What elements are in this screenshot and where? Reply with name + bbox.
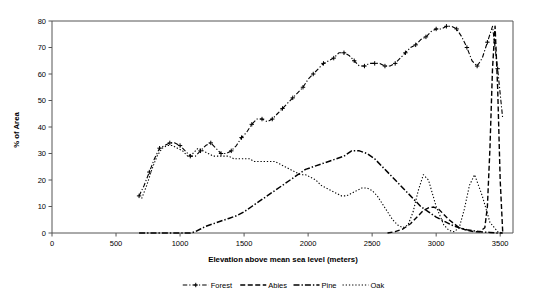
- data-series-group: [137, 24, 503, 233]
- plus-marker-icon: [342, 51, 346, 55]
- series-line-oak: [142, 146, 503, 233]
- x-tick-label: 500: [110, 239, 123, 248]
- plot-frame: [52, 21, 513, 233]
- plus-marker-icon: [157, 146, 161, 150]
- plus-marker-icon: [393, 61, 397, 65]
- series-line-pine: [139, 151, 503, 233]
- plus-marker-icon: [495, 67, 499, 71]
- y-axis-tick-labels: 01020304050607080: [38, 17, 46, 238]
- plus-marker-icon: [311, 72, 315, 76]
- x-tick-label: 3500: [492, 239, 509, 248]
- plus-marker-icon: [383, 64, 387, 68]
- x-tick-label: 1000: [172, 239, 189, 248]
- y-tick-label: 60: [38, 70, 46, 79]
- x-tick-label: 2000: [300, 239, 317, 248]
- x-axis-tick-labels: 0500100015002000250030003500: [50, 239, 509, 248]
- legend-item-oak[interactable]: Oak: [343, 281, 385, 290]
- x-tick-label: 2500: [364, 239, 381, 248]
- series-pine: [139, 151, 503, 233]
- plus-marker-icon: [270, 117, 274, 121]
- x-axis-ticks: [52, 233, 500, 237]
- plus-marker-icon: [168, 141, 172, 145]
- y-tick-label: 0: [42, 229, 46, 238]
- series-line-abies: [388, 26, 503, 233]
- legend-label: Abies: [268, 281, 287, 290]
- legend-label: Oak: [371, 281, 385, 290]
- y-tick-label: 40: [38, 123, 46, 132]
- x-tick-label: 3000: [428, 239, 445, 248]
- y-axis-ticks: [49, 21, 53, 233]
- y-tick-label: 20: [38, 176, 46, 185]
- y-tick-label: 70: [38, 43, 46, 52]
- y-tick-label: 10: [38, 202, 46, 211]
- legend-label: Pine: [322, 281, 337, 290]
- plus-marker-icon: [434, 27, 438, 31]
- chart-figure: 01020304050607080 0500100015002000250030…: [0, 0, 541, 300]
- series-line-forest: [139, 26, 503, 196]
- plus-marker-icon: [260, 117, 264, 121]
- plus-marker-icon: [362, 64, 366, 68]
- series-forest: [137, 24, 503, 198]
- chart-svg: 01020304050607080 0500100015002000250030…: [0, 0, 541, 300]
- y-tick-label: 30: [38, 149, 46, 158]
- x-tick-label: 1500: [236, 239, 253, 248]
- plus-marker-icon: [485, 40, 489, 44]
- plus-marker-icon: [137, 194, 141, 198]
- series-abies: [388, 26, 503, 233]
- y-tick-label: 50: [38, 96, 46, 105]
- plus-marker-icon: [444, 24, 448, 28]
- legend-item-forest[interactable]: Forest: [183, 281, 233, 290]
- plus-marker-icon: [178, 143, 182, 147]
- series-oak: [142, 146, 503, 233]
- legend-label: Forest: [211, 281, 233, 290]
- plus-marker-icon: [373, 61, 377, 65]
- plus-marker-icon: [413, 43, 417, 47]
- plus-marker-icon: [465, 45, 469, 49]
- x-tick-label: 0: [50, 239, 54, 248]
- legend-item-pine[interactable]: Pine: [294, 281, 337, 290]
- x-axis-title: Elevation above mean sea level (meters): [208, 255, 358, 264]
- y-axis-title: % of Area: [12, 112, 21, 148]
- plus-marker-icon: [194, 283, 198, 287]
- y-tick-label: 80: [38, 17, 46, 26]
- chart-legend: ForestAbiesPineOak: [183, 281, 385, 290]
- legend-item-abies[interactable]: Abies: [240, 281, 287, 290]
- plus-marker-icon: [332, 56, 336, 60]
